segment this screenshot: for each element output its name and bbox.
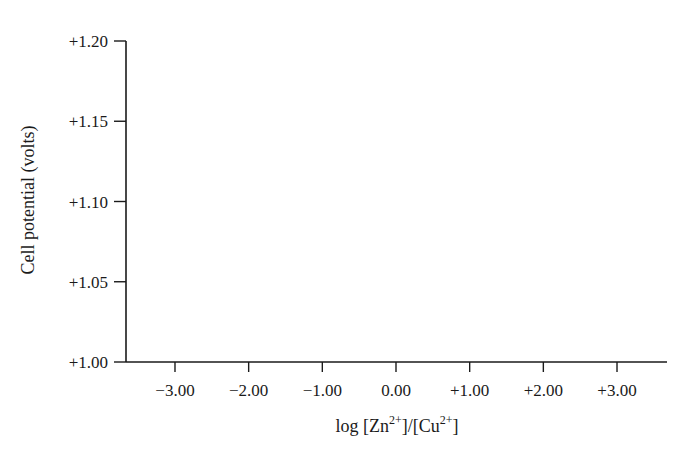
x-axis-ticks: −3.00−2.00−1.000.00+1.00+2.00+3.00 [155,362,636,400]
y-tick-label: +1.20 [69,32,108,51]
y-tick-label: +1.00 [69,353,108,372]
x-axis-title: log [Zn2+]/[Cu2+] [335,413,458,436]
y-tick-label: +1.15 [69,112,108,131]
x-tick-label: −3.00 [155,381,194,400]
chart: +1.00+1.05+1.10+1.15+1.20 −3.00−2.00−1.0… [0,0,683,455]
x-tick-label: +2.00 [524,381,563,400]
x-tick-label: −1.00 [303,381,342,400]
y-axis-title: Cell potential (volts) [18,126,39,275]
x-tick-label: −2.00 [229,381,268,400]
x-tick-label: +1.00 [450,381,489,400]
y-tick-label: +1.10 [69,193,108,212]
x-tick-label: 0.00 [381,381,411,400]
axes [126,41,667,362]
y-tick-label: +1.05 [69,273,108,292]
x-tick-label: +3.00 [597,381,636,400]
y-axis-ticks: +1.00+1.05+1.10+1.15+1.20 [69,32,126,372]
